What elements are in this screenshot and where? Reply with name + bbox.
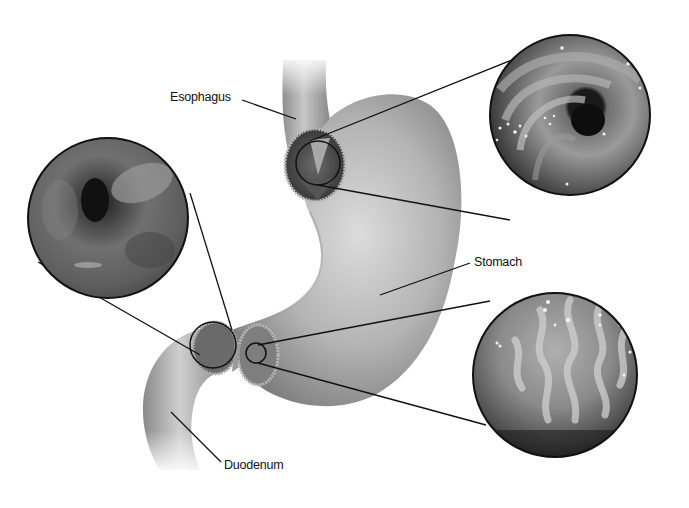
diagram-canvas	[0, 0, 689, 508]
label-duodenum: Duodenum	[224, 458, 284, 472]
inset-bottom-right	[473, 293, 637, 460]
label-stomach: Stomach	[474, 255, 522, 269]
anatomy-diagram: Esophagus Stomach Duodenum	[0, 0, 689, 508]
label-esophagus: Esophagus	[170, 90, 231, 104]
inset-left	[28, 138, 188, 298]
cardia-cross-section	[285, 129, 345, 201]
inset-top-right	[490, 35, 650, 195]
leader-line-left-upper	[190, 193, 232, 330]
